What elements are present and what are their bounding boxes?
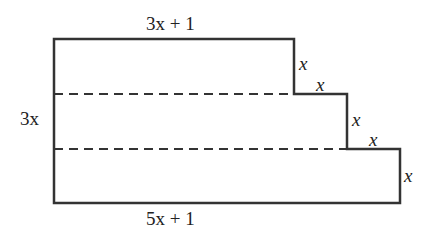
shape-outline: [54, 39, 400, 203]
label-step1-vertical: x: [299, 54, 307, 73]
label-right: x: [404, 166, 412, 185]
staircase-diagram: [0, 0, 433, 243]
label-top: 3x + 1: [146, 14, 195, 33]
label-step2-vertical: x: [352, 110, 360, 129]
label-left: 3x: [20, 109, 39, 128]
label-step1-horizontal: x: [316, 75, 324, 94]
label-bottom: 5x + 1: [146, 209, 195, 228]
label-step2-horizontal: x: [369, 130, 377, 149]
